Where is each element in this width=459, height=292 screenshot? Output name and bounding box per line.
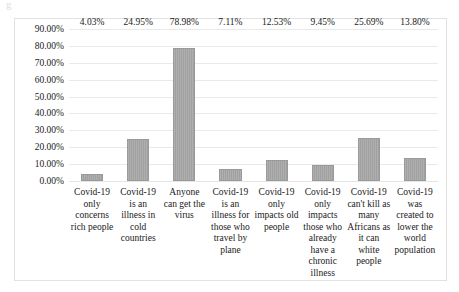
bar-value-label: 24.95%	[124, 17, 153, 27]
x-axis-category-label: Anyone can get the virus	[161, 187, 207, 222]
x-axis-category-label: Covid-19 is an illness in cold countries	[115, 187, 161, 245]
bar-slot: 13.80%	[392, 29, 438, 181]
bar-value-label: 9.45%	[310, 17, 335, 27]
y-axis-tick-label: 90.00%	[35, 29, 64, 30]
bar-value-label: 78.98%	[170, 17, 199, 27]
bar[interactable]: 13.80%	[404, 158, 426, 181]
bar[interactable]: 4.03%	[81, 174, 103, 181]
chart-container: 90.00%80.00%70.00%60.00%50.00%40.00%30.0…	[14, 18, 447, 281]
bar-slot: 4.03%	[69, 29, 115, 181]
y-axis-tick-label: 50.00%	[35, 97, 64, 98]
bar[interactable]: 24.95%	[127, 139, 149, 181]
plot-area: 90.00%80.00%70.00%60.00%50.00%40.00%30.0…	[69, 29, 438, 181]
x-axis-category-label: Covid-19 can't kill as many Africans as …	[346, 187, 392, 268]
x-axis-category-labels: Covid-19 only concerns rich peopleCovid-…	[69, 187, 438, 279]
bar-value-label: 12.53%	[262, 17, 291, 27]
bar[interactable]: 78.98%	[173, 48, 195, 181]
bar-series: 4.03%24.95%78.98%7.11%12.53%9.45%25.69%1…	[69, 29, 438, 181]
y-axis-tick-label: 70.00%	[35, 63, 64, 64]
x-axis-category-label: Covid-19 was created to lower the world …	[392, 187, 438, 256]
page-edge-artifact: g	[6, 0, 12, 10]
y-axis-tick-label: 0.00%	[39, 181, 64, 182]
y-axis-tick-label: 80.00%	[35, 46, 64, 47]
bar[interactable]: 25.69%	[358, 138, 380, 181]
bar-value-label: 13.80%	[400, 17, 429, 27]
bar[interactable]: 9.45%	[312, 165, 334, 181]
y-axis-tick-label: 20.00%	[35, 147, 64, 148]
bar[interactable]: 12.53%	[266, 160, 288, 181]
bar-slot: 78.98%	[161, 29, 207, 181]
x-axis-category-label: Covid-19 only impacts old people	[254, 187, 300, 233]
bar-slot: 25.69%	[346, 29, 392, 181]
bar-value-label: 4.03%	[80, 17, 105, 27]
bar-value-label: 7.11%	[218, 17, 242, 27]
bar-slot: 9.45%	[300, 29, 346, 181]
bar-slot: 7.11%	[207, 29, 253, 181]
x-axis-category-label: Covid-19 only concerns rich people	[69, 187, 115, 233]
bar-slot: 24.95%	[115, 29, 161, 181]
gridline	[69, 181, 438, 182]
y-axis-tick-label: 60.00%	[35, 80, 64, 81]
y-axis-tick-label: 10.00%	[35, 164, 64, 165]
y-axis-tick-label: 40.00%	[35, 113, 64, 114]
x-axis-category-label: Covid-19 is an illness for those who tra…	[207, 187, 253, 256]
bar[interactable]: 7.11%	[219, 169, 241, 181]
bar-slot: 12.53%	[254, 29, 300, 181]
y-axis-tick-label: 30.00%	[35, 130, 64, 131]
x-axis-category-label: Covid-19 only impacts those who already …	[300, 187, 346, 279]
bar-value-label: 25.69%	[354, 17, 383, 27]
